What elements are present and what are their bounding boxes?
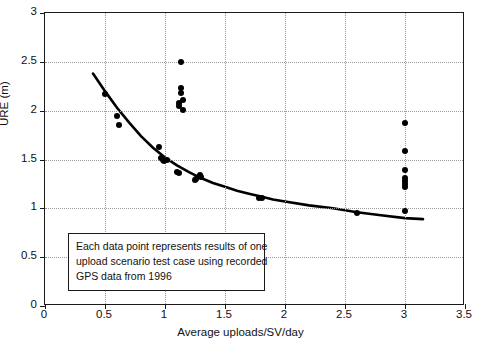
x-axis-tick-label: 2: [254, 309, 314, 321]
gridline-horizontal: [45, 160, 463, 161]
gridline-vertical: [405, 13, 406, 304]
gridline-vertical: [285, 13, 286, 304]
y-axis-tick: [40, 208, 45, 209]
y-axis-tick-label: 2: [0, 104, 37, 116]
x-axis-tick-label: 0: [14, 309, 74, 321]
data-point: [259, 195, 265, 201]
data-point: [402, 167, 408, 173]
x-axis-tick-label: 3.5: [434, 309, 481, 321]
data-point: [354, 210, 360, 216]
x-axis-tick-label: 2.5: [314, 309, 374, 321]
data-point: [178, 59, 184, 65]
data-point: [402, 208, 408, 214]
data-point: [102, 91, 108, 97]
gridline-horizontal: [45, 62, 463, 63]
x-axis-title: Average uploads/SV/day: [0, 326, 481, 338]
y-axis-tick: [40, 111, 45, 112]
data-point: [198, 174, 204, 180]
data-point: [178, 90, 184, 96]
gridline-horizontal: [45, 111, 463, 112]
annotation-line: Each data point represents results of on…: [76, 239, 258, 254]
data-point: [164, 157, 170, 163]
y-axis-tick: [40, 160, 45, 161]
annotation-line: GPS data from 1996: [76, 269, 258, 284]
data-point: [402, 120, 408, 126]
y-axis-tick-label: 1: [0, 201, 37, 213]
y-axis-tick: [40, 62, 45, 63]
annotation-box: Each data point represents results of on…: [68, 233, 265, 291]
y-axis-tick-label: 0.5: [0, 250, 37, 262]
x-axis-tick-label: 3: [374, 309, 434, 321]
y-axis-tick: [40, 257, 45, 258]
data-point: [402, 148, 408, 154]
gridline-horizontal: [45, 208, 463, 209]
gridline-vertical: [345, 13, 346, 304]
data-point: [180, 97, 186, 103]
annotation-line: upload scenario test case using recorded: [76, 254, 258, 269]
data-point: [176, 170, 182, 176]
x-axis-tick-label: 0.5: [74, 309, 134, 321]
data-point: [116, 122, 122, 128]
y-axis-tick: [40, 13, 45, 14]
y-axis-tick-label: 1.5: [0, 153, 37, 165]
y-axis-tick-label: 2.5: [0, 55, 37, 67]
x-axis-tick-label: 1: [134, 309, 194, 321]
y-axis-tick-label: 3: [0, 6, 37, 18]
data-point: [180, 107, 186, 113]
data-point: [402, 184, 408, 190]
data-point: [156, 144, 162, 150]
x-axis-tick-label: 1.5: [194, 309, 254, 321]
data-point: [114, 113, 120, 119]
scatter-chart: URE (m) Average uploads/SV/day 00.511.52…: [0, 0, 481, 343]
